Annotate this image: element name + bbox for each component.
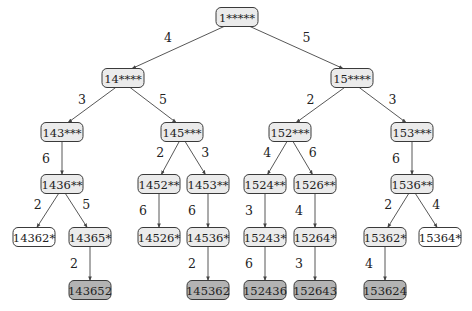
edge-label: 2 bbox=[384, 197, 392, 212]
tree-node: 1436** bbox=[41, 175, 83, 194]
edge-label: 3 bbox=[201, 145, 209, 160]
dead-end-node: 15364* bbox=[419, 228, 462, 247]
edge-arrow bbox=[359, 88, 406, 123]
edge: 6 bbox=[42, 142, 62, 175]
edge-arrow bbox=[250, 27, 343, 69]
node-label: 1524** bbox=[245, 178, 286, 192]
node-label: 14536* bbox=[187, 231, 230, 245]
edge-label: 4 bbox=[432, 197, 440, 212]
edge: 3 bbox=[185, 142, 209, 175]
edge-label: 6 bbox=[392, 151, 400, 166]
tree-node: 15243* bbox=[244, 228, 287, 247]
tree-node: 1***** bbox=[216, 8, 258, 27]
edge: 2 bbox=[188, 247, 208, 281]
edge: 2 bbox=[70, 247, 90, 281]
node-label: 1526** bbox=[295, 178, 336, 192]
edge-label: 4 bbox=[365, 256, 373, 271]
edge: 3 bbox=[295, 247, 315, 281]
edge-label: 3 bbox=[78, 92, 86, 107]
node-label: 152*** bbox=[270, 126, 309, 140]
node-label: 15243* bbox=[244, 231, 287, 245]
edge-label: 3 bbox=[245, 203, 253, 218]
tree-node: 14**** bbox=[102, 69, 144, 88]
edge: 6 bbox=[392, 142, 412, 175]
edge: 5 bbox=[130, 88, 176, 123]
edge-label: 5 bbox=[303, 30, 311, 45]
solution-node: 152436 bbox=[243, 281, 287, 300]
edge-arrow bbox=[130, 88, 176, 123]
edge-label: 2 bbox=[34, 197, 42, 212]
node-label: 15364* bbox=[419, 231, 462, 245]
edge: 2 bbox=[156, 142, 179, 175]
edge-label: 2 bbox=[306, 92, 314, 107]
edge-arrow bbox=[132, 27, 224, 69]
tree-node: 15264* bbox=[294, 228, 337, 247]
edge-label: 6 bbox=[139, 203, 147, 218]
edge: 6 bbox=[188, 194, 208, 228]
tree-node: 14536* bbox=[187, 228, 230, 247]
edge: 4 bbox=[365, 247, 385, 281]
tree-node: 1526** bbox=[294, 175, 336, 194]
edge-label: 4 bbox=[263, 145, 271, 160]
edge: 6 bbox=[139, 194, 159, 228]
edge: 4 bbox=[132, 27, 224, 69]
node-label: 153*** bbox=[392, 126, 431, 140]
edge-label: 6 bbox=[188, 203, 196, 218]
node-label: 1536** bbox=[392, 178, 433, 192]
edge-label: 6 bbox=[42, 151, 50, 166]
edge-label: 4 bbox=[295, 203, 303, 218]
edge-arrow bbox=[296, 88, 344, 123]
solution-node: 152643 bbox=[293, 281, 337, 300]
node-label: 1453** bbox=[188, 178, 229, 192]
edge: 5 bbox=[250, 27, 343, 69]
node-label: 1***** bbox=[219, 11, 255, 25]
tree-node: 14365* bbox=[69, 228, 112, 247]
edge-label: 2 bbox=[156, 145, 164, 160]
tree-node: 153*** bbox=[391, 123, 433, 142]
edge: 5 bbox=[65, 194, 90, 228]
edge: 2 bbox=[384, 194, 409, 228]
tree-node: 14526* bbox=[138, 228, 181, 247]
node-label: 145*** bbox=[162, 126, 201, 140]
node-label: 1452** bbox=[139, 178, 180, 192]
dead-end-node: 14362* bbox=[13, 228, 56, 247]
edge: 2 bbox=[296, 88, 344, 123]
tree-node: 1453** bbox=[187, 175, 229, 194]
edge-label: 4 bbox=[164, 30, 172, 45]
node-label: 14362* bbox=[13, 231, 56, 245]
node-label: 143652 bbox=[68, 284, 112, 298]
tree-node: 145*** bbox=[161, 123, 203, 142]
node-label: 152436 bbox=[243, 284, 287, 298]
edge: 3 bbox=[68, 88, 116, 123]
tree-node: 1536** bbox=[391, 175, 433, 194]
node-label: 14**** bbox=[104, 72, 142, 86]
node-label: 152643 bbox=[293, 284, 337, 298]
node-label: 15264* bbox=[294, 231, 337, 245]
edge-arrow bbox=[68, 88, 116, 123]
edge-label: 2 bbox=[188, 256, 196, 271]
edge-label: 6 bbox=[245, 256, 253, 271]
search-tree-diagram: 4535236234662566342422634 1*****14****15… bbox=[0, 0, 472, 311]
edge: 4 bbox=[415, 194, 440, 228]
edge: 4 bbox=[263, 142, 287, 175]
tree-node: 1524** bbox=[244, 175, 286, 194]
node-label: 15362* bbox=[364, 231, 407, 245]
node-label: 1436** bbox=[42, 178, 83, 192]
edge: 6 bbox=[245, 247, 265, 281]
node-label: 143*** bbox=[42, 126, 81, 140]
edge-label: 5 bbox=[82, 197, 90, 212]
node-label: 145362 bbox=[186, 284, 230, 298]
edge-label: 3 bbox=[389, 92, 397, 107]
node-label: 14365* bbox=[69, 231, 112, 245]
node-label: 14526* bbox=[138, 231, 181, 245]
solution-node: 153624 bbox=[363, 281, 407, 300]
tree-node: 152*** bbox=[269, 123, 311, 142]
tree-node: 15**** bbox=[331, 69, 373, 88]
tree-node: 1452** bbox=[138, 175, 180, 194]
edge-label: 3 bbox=[295, 256, 303, 271]
solution-node: 145362 bbox=[186, 281, 230, 300]
edge: 3 bbox=[245, 194, 265, 228]
tree-node: 15362* bbox=[364, 228, 407, 247]
edge: 6 bbox=[293, 142, 317, 175]
edge: 4 bbox=[295, 194, 315, 228]
